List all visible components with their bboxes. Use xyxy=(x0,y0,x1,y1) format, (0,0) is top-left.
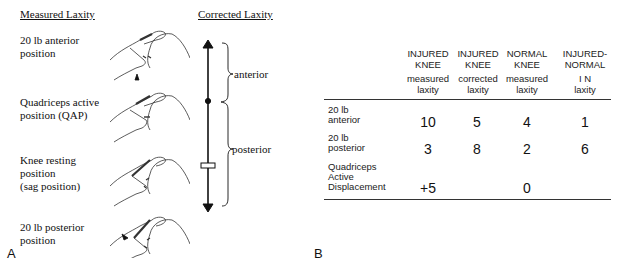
cell-value: 2 xyxy=(502,141,552,157)
knee-sketch-sag-icon xyxy=(110,157,190,206)
panel-b-label: B xyxy=(314,246,323,261)
column-title: INJURED xyxy=(402,48,454,59)
position-label-anterior: 20 lb anterior position xyxy=(20,34,79,60)
corrected-laxity-header: Corrected Laxity xyxy=(198,8,273,20)
position-line: 20 lb anterior xyxy=(20,34,79,47)
position-line: position xyxy=(20,167,80,180)
column-subtitle: laxity xyxy=(501,84,553,95)
table-bottom-rule xyxy=(324,199,611,200)
column-subtitle: measured xyxy=(402,73,454,84)
position-line: 20 lb posterior xyxy=(20,221,84,234)
position-line: Knee resting xyxy=(20,154,80,167)
position-label-sag: Knee resting position (sag position) xyxy=(20,154,80,193)
position-line: Quadriceps active xyxy=(20,96,99,109)
position-line: position xyxy=(20,234,84,247)
measured-laxity-header: Measured Laxity xyxy=(20,8,95,20)
column-header-injured-corrected: INJURED KNEE corrected laxity xyxy=(452,48,504,95)
position-line: (sag position) xyxy=(20,180,80,193)
column-subtitle: laxity xyxy=(402,84,454,95)
row-label-line: anterior xyxy=(328,115,360,125)
knee-sketch-posterior-icon xyxy=(110,217,190,258)
row-label-quadriceps-active-displacement: Quadriceps Active Displacement xyxy=(328,162,386,192)
knee-sketch-anterior-icon xyxy=(110,31,190,80)
position-line: position xyxy=(20,47,79,60)
column-subtitle: laxity xyxy=(452,84,504,95)
position-line: position (QAP) xyxy=(20,109,99,122)
sag-rectangle-icon xyxy=(201,163,215,168)
arrow-up-icon xyxy=(203,40,213,48)
cell-value: 6 xyxy=(560,141,610,157)
cell-value: +5 xyxy=(403,180,453,196)
column-subtitle: laxity xyxy=(556,84,614,95)
column-subtitle: I N xyxy=(556,73,614,84)
column-header-injured-minus-normal: INJURED- NORMAL I N laxity xyxy=(556,48,614,95)
column-title: INJURED- xyxy=(556,48,614,59)
column-title: KNEE xyxy=(402,59,454,70)
column-title: KNEE xyxy=(452,59,504,70)
cell-value: 3 xyxy=(403,141,453,157)
column-title: NORMAL xyxy=(501,48,553,59)
anterior-brace-icon xyxy=(221,43,233,102)
scale-label-anterior: anterior xyxy=(234,68,268,80)
cell-value: 0 xyxy=(502,180,552,196)
corrected-laxity-scale xyxy=(198,38,238,214)
panel-a-label: A xyxy=(7,246,16,261)
column-subtitle: measured xyxy=(501,73,553,84)
cell-value: 4 xyxy=(502,114,552,130)
row-label-line: posterior xyxy=(328,143,365,153)
column-header-normal-measured: NORMAL KNEE measured laxity xyxy=(501,48,553,95)
table-top-rule xyxy=(324,99,611,100)
column-title: NORMAL xyxy=(556,59,614,70)
column-title: INJURED xyxy=(452,48,504,59)
position-label-qap: Quadriceps active position (QAP) xyxy=(20,96,99,122)
column-subtitle: corrected xyxy=(452,73,504,84)
row-label-20lb-anterior: 20 lb anterior xyxy=(328,105,360,125)
knee-sketch-qap-icon xyxy=(110,93,190,142)
cell-value: 8 xyxy=(452,141,502,157)
arrow-down-icon xyxy=(203,204,213,212)
row-label-20lb-posterior: 20 lb posterior xyxy=(328,133,365,153)
row-label-line: Displacement xyxy=(328,182,386,192)
column-header-injured-measured: INJURED KNEE measured laxity xyxy=(402,48,454,95)
column-title: KNEE xyxy=(501,59,553,70)
qap-dot-icon xyxy=(205,98,210,103)
position-label-posterior: 20 lb posterior position xyxy=(20,221,84,247)
cell-value: 1 xyxy=(560,114,610,130)
scale-label-posterior: posterior xyxy=(232,143,271,155)
cell-value: 10 xyxy=(403,114,453,130)
cell-value: 5 xyxy=(452,114,502,130)
knee-illustrations xyxy=(100,18,190,258)
